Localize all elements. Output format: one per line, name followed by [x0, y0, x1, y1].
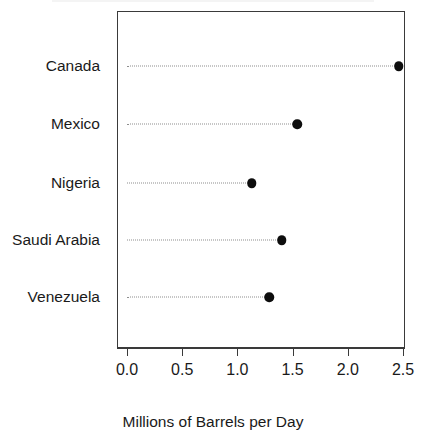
- data-point-saudi-arabia: [277, 235, 287, 245]
- x-axis-tick-label: 1.0: [226, 362, 248, 378]
- data-point-venezuela: [265, 292, 275, 302]
- x-axis-title: Millions of Barrels per Day: [0, 414, 426, 430]
- x-axis-tick-label: 2.5: [392, 362, 414, 378]
- x-axis-tick: [127, 348, 128, 356]
- category-label-venezuela: Venezuela: [28, 289, 100, 305]
- category-label-saudi-arabia: Saudi Arabia: [12, 232, 100, 248]
- x-axis-tick-label: 0.5: [171, 362, 193, 378]
- leader-line: [127, 183, 248, 184]
- data-point-mexico: [292, 119, 302, 129]
- x-axis-tick: [293, 348, 294, 356]
- x-axis-tick-label: 1.5: [281, 362, 303, 378]
- leader-line: [127, 240, 278, 241]
- x-axis-tick: [237, 348, 238, 356]
- leader-line: [127, 124, 293, 125]
- x-axis-tick: [182, 348, 183, 356]
- data-point-nigeria: [247, 178, 257, 188]
- category-label-mexico: Mexico: [51, 116, 100, 132]
- data-point-canada: [394, 61, 404, 71]
- x-axis-line: [117, 348, 405, 349]
- clipped-top-artifact: [52, 0, 374, 2]
- category-label-canada: Canada: [46, 58, 100, 74]
- x-axis-tick: [403, 348, 404, 356]
- leader-line: [127, 297, 265, 298]
- dot-plot-figure: CanadaMexicoNigeriaSaudi ArabiaVenezuela…: [0, 0, 426, 440]
- x-axis-tick-label: 2.0: [337, 362, 359, 378]
- x-axis-tick: [348, 348, 349, 356]
- x-axis-tick-label: 0.0: [116, 362, 138, 378]
- leader-line: [127, 66, 395, 67]
- category-label-nigeria: Nigeria: [51, 175, 100, 191]
